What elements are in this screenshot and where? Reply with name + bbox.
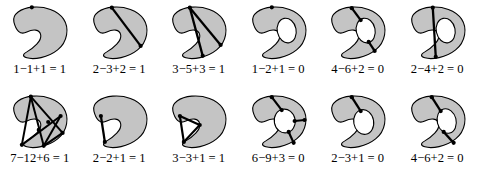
vertex-dot xyxy=(61,131,65,135)
vertex-dot xyxy=(279,108,283,112)
vertex-dot xyxy=(429,95,433,99)
figure-caption-annulus-4: 6−9+3 = 0 xyxy=(239,151,319,166)
figure-art-annulus-4 xyxy=(239,89,319,155)
figure-caption-annulus-3: 2−4+2 = 0 xyxy=(398,62,477,77)
vertex-dot xyxy=(102,140,106,144)
vertex-dot xyxy=(438,109,442,113)
vertex-dot xyxy=(219,43,223,47)
vertex-dot xyxy=(29,95,33,99)
figure-caption-disk-2: 2−3+2 = 1 xyxy=(80,62,160,77)
figure-cell-annulus-6: 4−6+2 = 0 xyxy=(398,89,477,178)
blob-outline-icon xyxy=(14,7,67,59)
figure-caption-disk-4: 7−12+6 = 1 xyxy=(0,151,80,166)
figure-art-annulus-3 xyxy=(398,0,477,66)
vertex-dot xyxy=(182,140,186,144)
figure-cell-annulus-5: 2−3+1 = 0 xyxy=(318,89,398,178)
vertex-dot xyxy=(441,130,445,134)
figure-cell-disk-2: 2−3+2 = 1 xyxy=(80,0,160,89)
figure-art-disk-2 xyxy=(80,0,160,66)
vertex-dot xyxy=(59,114,63,118)
blob-outline-icon xyxy=(173,7,226,59)
vertex-dot xyxy=(188,6,192,10)
vertex-dot xyxy=(451,141,455,145)
vertex-dot xyxy=(302,118,306,122)
figure-caption-disk-5: 2−2+1 = 1 xyxy=(80,151,160,166)
vertex-dot xyxy=(98,114,102,118)
figure-cell-disk-5: 2−2+1 = 1 xyxy=(80,89,160,178)
vertex-dot xyxy=(430,6,434,10)
figure-caption-disk-1: 1−1+1 = 1 xyxy=(0,62,80,77)
vertex-dot xyxy=(350,6,354,10)
vertex-dot xyxy=(46,120,50,124)
vertex-dot xyxy=(433,55,437,59)
vertex-dot xyxy=(359,109,363,113)
figure-caption-annulus-2: 4−6+2 = 0 xyxy=(318,62,398,77)
figure-art-disk-4 xyxy=(0,89,80,155)
figure-caption-annulus-5: 2−3+1 = 0 xyxy=(318,151,398,166)
vertex-dot xyxy=(178,114,182,118)
vertex-dot xyxy=(198,123,202,127)
vertex-dot xyxy=(201,54,205,58)
figure-cell-disk-3: 3−5+3 = 1 xyxy=(159,0,239,89)
figure-art-disk-3 xyxy=(159,0,239,66)
vertex-dot xyxy=(30,5,34,9)
figure-art-annulus-2 xyxy=(318,0,398,66)
vertex-dot xyxy=(367,40,371,44)
vertex-dot xyxy=(42,144,46,148)
vertex-dot xyxy=(373,49,377,53)
figure-cell-annulus-3: 2−4+2 = 0 xyxy=(398,0,477,89)
figure-art-disk-1 xyxy=(0,0,80,66)
blob-outline-icon xyxy=(93,7,146,59)
figure-caption-annulus-1: 1−2+1 = 0 xyxy=(239,62,319,77)
figure-cell-disk-4: 7−12+6 = 1 xyxy=(0,89,80,178)
figure-cell-disk-6: 3−3+1 = 1 xyxy=(159,89,239,178)
vertex-dot xyxy=(291,141,295,145)
vertex-dot xyxy=(359,18,363,22)
vertex-dot xyxy=(269,95,273,99)
figure-art-annulus-6 xyxy=(398,89,477,155)
figure-art-disk-6 xyxy=(159,89,239,155)
figure-art-annulus-5 xyxy=(318,89,398,155)
euler-characteristic-figure: 1−1+1 = 1 2−3+2 = 1 xyxy=(0,0,477,178)
vertex-dot xyxy=(109,6,113,10)
figure-caption-disk-6: 3−3+1 = 1 xyxy=(159,151,239,166)
figure-grid: 1−1+1 = 1 2−3+2 = 1 xyxy=(0,0,477,178)
vertex-dot xyxy=(286,130,290,134)
vertex-dot xyxy=(138,44,142,48)
vertex-dot xyxy=(269,5,273,9)
figure-cell-annulus-2: 4−6+2 = 0 xyxy=(318,0,398,89)
figure-art-disk-5 xyxy=(80,89,160,155)
figure-cell-disk-1: 1−1+1 = 1 xyxy=(0,0,80,89)
vertex-dot xyxy=(20,143,24,147)
blob-outline-icon xyxy=(14,96,67,148)
vertex-dot xyxy=(350,95,354,99)
figure-caption-annulus-6: 4−6+2 = 0 xyxy=(398,151,477,166)
vertex-dot xyxy=(37,128,41,132)
figure-caption-disk-3: 3−5+3 = 1 xyxy=(159,62,239,77)
figure-cell-annulus-4: 6−9+3 = 0 xyxy=(239,89,319,178)
figure-cell-annulus-1: 1−2+1 = 0 xyxy=(239,0,319,89)
vertex-dot xyxy=(292,119,296,123)
figure-art-annulus-1 xyxy=(239,0,319,66)
